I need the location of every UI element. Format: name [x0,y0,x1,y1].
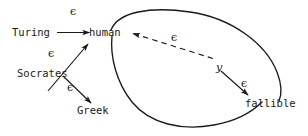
label-epsilon-socrates-human: ϵ [48,48,54,59]
label-epsilon-socrates-greek: ϵ [67,82,73,93]
node-turing[interactable]: Turing [12,27,50,38]
label-epsilon-y-fallible: ϵ [241,78,247,89]
node-fallible[interactable]: fallible [245,98,296,109]
shape-ellipse-arc-lower [112,36,262,127]
label-epsilon-dashed-human: ϵ [171,32,177,43]
node-socrates[interactable]: Socrates [17,68,68,79]
shape-ellipse-arc-upper [111,10,281,101]
diagram-canvas: Turing human Socrates Greek fallible ϵ ϵ… [0,0,308,136]
label-variable-y: y [216,62,222,73]
node-human[interactable]: human [89,27,121,38]
label-epsilon-turing-human: ϵ [70,6,76,17]
node-greek[interactable]: Greek [77,105,109,116]
